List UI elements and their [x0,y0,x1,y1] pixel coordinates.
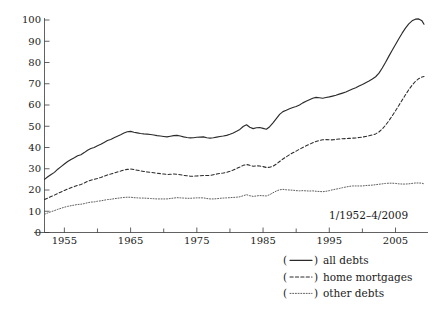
x-tick-label: 2005 [383,235,408,246]
y-tick-label: 50 [28,121,41,132]
legend-label-all-debts: all debts [323,254,369,266]
legend-close-paren: ) [314,287,318,299]
data-series-group [45,19,425,214]
x-axis: 195519651975198519952005 [34,228,428,247]
series-line-all-debts [45,19,425,179]
y-tick-label: 90 [28,36,41,47]
x-tick-label: 1955 [52,235,77,246]
x-axis-minor-ticks [97,229,362,233]
y-tick-label: 20 [28,184,41,195]
y-tick-label: 30 [28,163,41,174]
legend-close-paren: ) [314,271,318,283]
date-range-annotation: 1/1952–4/2009 [329,209,408,221]
legend-close-paren: ) [314,254,318,266]
legend-label-other-debts: other debts [323,287,384,299]
x-tick-label: 1975 [184,235,209,246]
legend-open-paren: ( [283,254,287,266]
legend-label-home-mortgages: home mortgages [323,271,412,283]
chart-plot-area: 0102030405060708090100 19551965197519851… [0,0,434,310]
x-axis-tick-labels: 195519651975198519952005 [52,235,409,246]
y-tick-label: 60 [28,99,41,110]
y-axis: 0102030405060708090100 [22,14,50,238]
y-tick-label: 10 [28,206,41,217]
x-tick-label: 1965 [118,235,143,246]
y-tick-label: 40 [28,142,41,153]
series-line-home-mortgages [45,77,425,200]
x-tick-label: 1985 [250,235,275,246]
y-tick-label: 80 [28,57,41,68]
x-tick-label: 1995 [317,235,342,246]
legend-open-paren: ( [283,271,287,283]
y-tick-label: 70 [28,78,41,89]
y-axis-ticks [45,20,50,233]
y-axis-tick-labels: 0102030405060708090100 [22,14,41,238]
legend-open-paren: ( [283,287,287,299]
chart-legend: ()all debts()home mortgages()other debts [283,254,412,299]
chart-figure: 0102030405060708090100 19551965197519851… [0,0,434,310]
y-tick-label: 100 [22,14,41,25]
